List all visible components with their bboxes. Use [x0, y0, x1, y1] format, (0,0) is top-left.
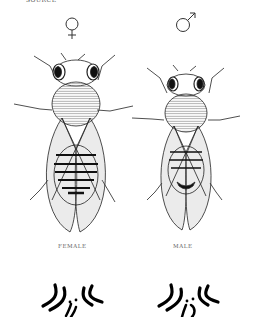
male-fly-drawing	[132, 65, 240, 230]
female-fly-drawing	[14, 53, 133, 232]
drosophila-illustration	[0, 0, 253, 317]
male-karyotype	[159, 285, 218, 317]
female-label: FEMALE	[58, 243, 87, 249]
female-karyotype	[43, 285, 102, 317]
male-label: MALE	[173, 243, 193, 249]
female-symbol-icon	[66, 18, 78, 39]
male-symbol-icon	[177, 13, 196, 32]
